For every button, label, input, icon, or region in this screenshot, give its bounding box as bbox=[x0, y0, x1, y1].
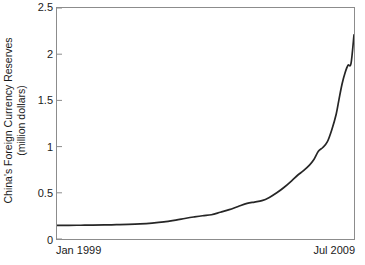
y-tick-label-5: 2.5 bbox=[29, 1, 53, 13]
x-tick-label-start: Jan 1999 bbox=[56, 244, 101, 256]
y-tick-label-0: 0 bbox=[29, 234, 53, 246]
plot-area bbox=[56, 7, 355, 240]
chart-canvas bbox=[57, 8, 354, 239]
y-tick-label-1: 0.5 bbox=[29, 187, 53, 199]
y-tick-label-2: 1 bbox=[29, 141, 53, 153]
chart-figure: China's Foreign Currency Reserves (milli… bbox=[0, 0, 365, 265]
y-axis-title-line-2: (million dollars) bbox=[14, 37, 27, 203]
y-axis-tick-marks bbox=[57, 8, 62, 239]
y-tick-label-3: 1.5 bbox=[29, 94, 53, 106]
y-tick-label-4: 2 bbox=[29, 48, 53, 60]
data-series-line bbox=[57, 35, 354, 226]
y-axis-tick-labels: 0 0.5 1 1.5 2 2.5 bbox=[28, 0, 53, 265]
x-tick-label-end: Jul 2009 bbox=[313, 244, 355, 256]
y-axis-title: China's Foreign Currency Reserves (milli… bbox=[0, 0, 28, 240]
y-axis-title-line-1: China's Foreign Currency Reserves bbox=[2, 37, 15, 203]
